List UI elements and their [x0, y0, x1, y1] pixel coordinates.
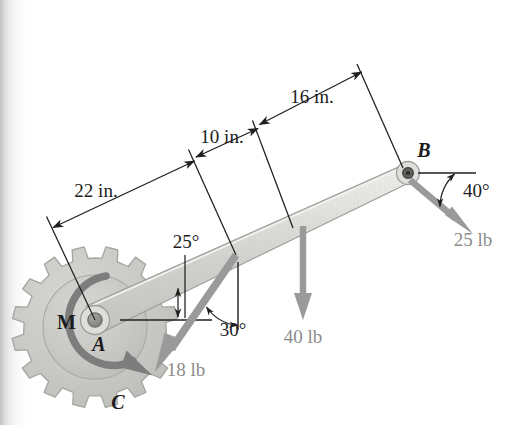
force-label-18lb: 18 lb — [167, 359, 206, 380]
figure-canvas: 22 in. 10 in. 16 in. 25° 30° 18 lb — [0, 0, 507, 425]
force-label-40lb: 40 lb — [284, 326, 323, 347]
angle-label-25: 25° — [173, 231, 200, 252]
pin-b-core — [406, 171, 410, 175]
beam-gear-diagram: 22 in. 10 in. 16 in. 25° 30° 18 lb — [0, 0, 507, 425]
point-label-b: B — [416, 139, 430, 161]
angle-label-40: 40° — [463, 180, 490, 201]
moment-label-m: M — [57, 311, 76, 333]
point-label-c: C — [111, 391, 125, 413]
dim-label-22: 22 in. — [74, 180, 117, 201]
page-edge-shadow — [0, 0, 34, 425]
force-label-25lb: 25 lb — [454, 229, 493, 250]
angle-label-30: 30° — [220, 319, 247, 340]
dim-label-10: 10 in. — [200, 126, 243, 147]
point-label-a: A — [90, 333, 105, 355]
dim-label-16: 16 in. — [290, 86, 333, 107]
